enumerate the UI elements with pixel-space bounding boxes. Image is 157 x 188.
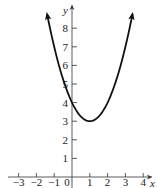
x-tick-label: −3 bbox=[13, 176, 25, 188]
x-tick-label: −2 bbox=[31, 176, 43, 188]
x-tick-label: 4 bbox=[140, 176, 146, 188]
y-axis-label: y bbox=[62, 4, 68, 16]
curve-arrowheads bbox=[44, 11, 137, 20]
y-tick-label: 4 bbox=[63, 97, 69, 109]
parabola-curve bbox=[47, 14, 132, 121]
y-tick-label: 7 bbox=[63, 41, 69, 53]
tick-labels: −3−2−10123412345678 bbox=[13, 22, 147, 188]
x-tick-label: −1 bbox=[48, 176, 60, 188]
x-tick-label: 3 bbox=[123, 176, 129, 188]
x-tick-label: 1 bbox=[87, 176, 93, 188]
parabola-plot: −3−2−10123412345678 x y bbox=[0, 0, 157, 188]
axes bbox=[8, 5, 152, 188]
y-tick-label: 2 bbox=[63, 134, 69, 146]
x-tick-label: 0 bbox=[64, 176, 70, 188]
y-tick-label: 3 bbox=[63, 115, 69, 127]
y-tick-label: 6 bbox=[63, 59, 69, 71]
x-axis-label: x bbox=[149, 177, 155, 188]
y-tick-label: 8 bbox=[63, 22, 69, 34]
x-tick-label: 2 bbox=[105, 176, 111, 188]
y-tick-label: 1 bbox=[63, 152, 69, 164]
